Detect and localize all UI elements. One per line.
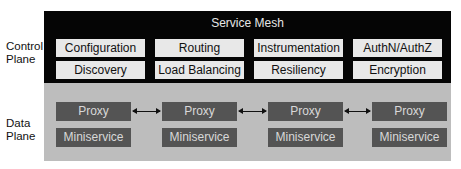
bidirectional-arrow-icon [239,111,266,112]
data-plane-panel: Proxy Miniservice Proxy Miniservice Prox… [44,83,451,161]
miniservice-box-2: Miniservice [162,128,237,147]
bidirectional-arrow-icon [345,111,370,112]
miniservice-box-3: Miniservice [268,128,343,147]
data-plane-label-line1: Data [6,117,35,130]
bidirectional-arrow-icon [133,111,160,112]
service-mesh-title: Service Mesh [44,16,451,30]
proxy-box-2: Proxy [162,102,237,121]
load-balancing-box: Load Balancing [155,61,244,79]
miniservice-box-1: Miniservice [56,128,131,147]
control-plane-panel: Service Mesh Configuration Routing Instr… [44,11,451,83]
miniservice-box-4: Miniservice [372,128,447,147]
instrumentation-box: Instrumentation [254,39,343,57]
proxy-box-3: Proxy [268,102,343,121]
encryption-box: Encryption [353,61,442,79]
control-plane-label-line1: Control [6,40,43,53]
discovery-box: Discovery [56,61,145,79]
proxy-box-4: Proxy [372,102,447,121]
data-plane-label-line2: Plane [6,130,35,143]
control-plane-label-line2: Plane [6,53,43,66]
resiliency-box: Resiliency [254,61,343,79]
data-plane-label: Data Plane [6,117,35,143]
routing-box: Routing [155,39,244,57]
authn-authz-box: AuthN/AuthZ [353,39,442,57]
control-plane-label: Control Plane [6,40,43,66]
proxy-box-1: Proxy [56,102,131,121]
configuration-box: Configuration [56,39,145,57]
